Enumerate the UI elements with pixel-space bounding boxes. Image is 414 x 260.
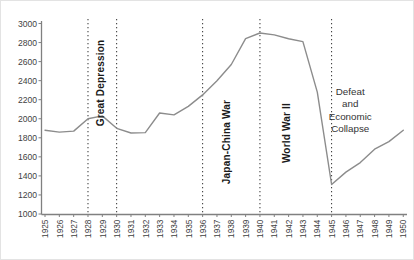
annotation-great-depression: Great Depression: [95, 40, 106, 127]
y-tick-label: 1800: [18, 133, 37, 143]
x-tick-label: 1931: [126, 219, 136, 238]
x-tick-label: 1934: [169, 219, 179, 238]
x-tick-label: 1944: [312, 219, 322, 238]
y-tick-label: 2800: [18, 38, 37, 48]
y-tick-label: 1000: [18, 209, 37, 219]
x-tick-label: 1942: [284, 219, 294, 238]
x-tick-label: 1927: [69, 219, 79, 238]
annotation-world-war-ii: World War II: [281, 103, 292, 163]
x-tick-label: 1929: [98, 219, 108, 238]
chart-canvas: 1000120014001600180020002200240026002800…: [1, 1, 414, 260]
x-tick-label: 1936: [198, 219, 208, 238]
y-tick-label: 1600: [18, 152, 37, 162]
x-tick-label: 1925: [40, 219, 50, 238]
x-tick-label: 1928: [83, 219, 93, 238]
x-tick-label: 1937: [212, 219, 222, 238]
x-tick-label: 1932: [141, 219, 151, 238]
x-tick-label: 1945: [327, 219, 337, 238]
x-tick-label: 1935: [184, 219, 194, 238]
y-tick-label: 2200: [18, 95, 37, 105]
x-tick-label: 1948: [370, 219, 380, 238]
line-chart-figure: 1000120014001600180020002200240026002800…: [0, 0, 414, 260]
y-tick-label: 2000: [18, 114, 37, 124]
x-tick-label: 1939: [241, 219, 251, 238]
y-tick-label: 2400: [18, 76, 37, 86]
x-tick-label: 1943: [298, 219, 308, 238]
y-tick-label: 1200: [18, 190, 37, 200]
x-tick-label: 1930: [112, 219, 122, 238]
x-tick-label: 1938: [226, 219, 236, 238]
x-tick-label: 1941: [269, 219, 279, 238]
annotation-defeat-economic-collapse-line: Economic: [329, 111, 372, 122]
y-tick-label: 1400: [18, 171, 37, 181]
x-tick-label: 1946: [341, 219, 351, 238]
x-tick-label: 1947: [355, 219, 365, 238]
x-tick-label: 1950: [398, 219, 408, 238]
annotation-defeat-economic-collapse-line: and: [342, 98, 358, 109]
annotation-defeat-economic-collapse-line: Defeat: [336, 86, 365, 97]
y-tick-label: 3000: [18, 19, 37, 29]
annotation-defeat-economic-collapse-line: Collapse: [331, 123, 370, 134]
annotation-japan-china-war: Japan-China War: [221, 100, 232, 184]
x-tick-label: 1926: [55, 219, 65, 238]
x-tick-label: 1949: [384, 219, 394, 238]
y-tick-label: 2600: [18, 57, 37, 67]
x-tick-label: 1933: [155, 219, 165, 238]
x-tick-label: 1940: [255, 219, 265, 238]
